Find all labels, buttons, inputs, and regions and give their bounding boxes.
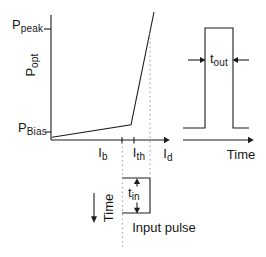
ith-label: Ith	[133, 146, 145, 163]
p-peak-label: Ppeak	[12, 18, 43, 35]
output-pulse-trace	[183, 28, 249, 128]
tin-up-arrowhead-icon	[134, 178, 140, 184]
input-time-arrowhead-icon	[91, 216, 97, 223]
laser-modulation-figure: Ppeak Popt PBias Ib Ith Id tout Time tin…	[0, 0, 266, 257]
li-curve	[52, 12, 154, 137]
tout-label: tout	[210, 52, 228, 69]
ib-label: Ib	[98, 146, 107, 163]
p-opt-axis-label: Popt	[24, 53, 41, 76]
input-pulse-caption: Input pulse	[132, 221, 196, 235]
time-label-input: Time	[102, 194, 116, 222]
current-axis-arrowhead-icon	[164, 137, 170, 144]
tin-label: tin	[128, 186, 140, 203]
p-bias-label: PBias	[18, 121, 47, 138]
id-label: Id	[163, 147, 172, 164]
time-label-output: Time	[227, 148, 255, 162]
output-time-axis-arrowhead-icon	[248, 137, 254, 144]
